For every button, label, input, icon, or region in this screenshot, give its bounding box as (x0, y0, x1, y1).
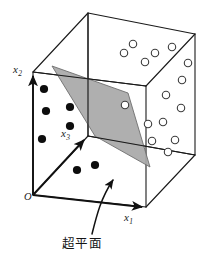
cube-edge-top-back (88, 13, 195, 34)
cube-edge-top-back-left (33, 13, 88, 72)
open-point (121, 101, 128, 108)
figure-canvas (0, 0, 213, 266)
axis-label-x2: x2 (13, 64, 22, 75)
axis-label-x3: x3 (61, 128, 70, 139)
axis-x1-line (33, 195, 142, 207)
origin-label: O (24, 192, 32, 203)
open-point (177, 104, 184, 111)
open-point (184, 59, 191, 66)
open-point (178, 76, 185, 83)
open-point (168, 43, 175, 50)
cube-edge-bottom-right (146, 155, 195, 207)
open-point (141, 58, 148, 65)
hyperplane-cube-figure: x2 x3 x1 O 超平面 (0, 0, 213, 266)
callout-arrow (92, 180, 113, 234)
filled-point (42, 107, 50, 115)
filled-point (40, 85, 48, 93)
hyperplane-polygon (52, 66, 150, 167)
filled-point (91, 161, 99, 169)
filled-point (73, 166, 81, 174)
open-point (148, 137, 155, 144)
open-point (151, 49, 158, 56)
open-point (144, 120, 151, 127)
open-point (159, 118, 166, 125)
open-point (171, 136, 178, 143)
open-point (120, 49, 127, 56)
open-point (162, 91, 169, 98)
filled-point (38, 135, 46, 143)
axis-label-x1: x1 (124, 212, 133, 223)
hyperplane-caption: 超平面 (62, 238, 102, 251)
open-point (129, 40, 136, 47)
open-point (164, 148, 171, 155)
filled-point (66, 103, 74, 111)
